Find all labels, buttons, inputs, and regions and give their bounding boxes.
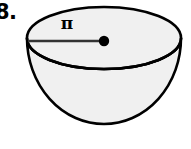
hemisphere-figure: 8. π bbox=[0, 0, 191, 149]
center-point-dot bbox=[99, 36, 109, 46]
radius-length-label: π bbox=[55, 13, 79, 33]
hemisphere-drawing bbox=[0, 0, 191, 149]
